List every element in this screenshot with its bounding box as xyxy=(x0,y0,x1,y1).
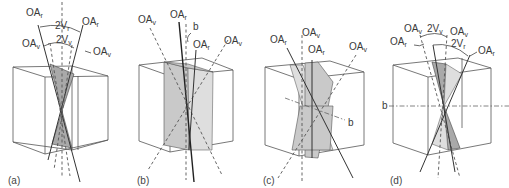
label-oa-v-left: OAv xyxy=(404,23,422,35)
panel-d: OAv 2Vv OAv OAr 2Vr OAr b (d) xyxy=(382,23,509,186)
label-2v-v: 2Vv xyxy=(56,34,72,46)
label-oa-r-right: OAr xyxy=(82,16,99,28)
label-oa-v-left: OAv xyxy=(22,38,40,50)
label-oa-r-left: OAr xyxy=(26,7,43,19)
label-oa-v-top: OAv xyxy=(302,27,320,39)
label-oa-r-mid: OAr xyxy=(193,39,210,51)
label-oa-v-right: OAv xyxy=(224,35,242,47)
optic-axial-plane-b xyxy=(164,62,213,150)
panel-c: OAr OAv OAr OAv b (c) xyxy=(263,27,367,186)
label-oa-r-left: OAr xyxy=(390,36,407,48)
label-oa-r-left: OAr xyxy=(270,34,287,46)
label-2v-r: 2Vr xyxy=(451,38,466,50)
label-oa-v-right: OAv xyxy=(93,46,111,58)
label-oa-r-top: OAr xyxy=(170,9,187,21)
panel-a: OAr OAr 2Vr OAv 2Vv OAv (a) xyxy=(8,2,111,186)
label-2v-r: 2Vr xyxy=(55,20,70,32)
optic-axes-figure: OAr OAr 2Vr OAv 2Vv OAv (a) OAv OAr xyxy=(0,0,509,188)
panel-caption-b: (b) xyxy=(137,175,149,186)
label-b-axis: b xyxy=(382,100,388,111)
label-oa-r-mid: OAr xyxy=(308,44,325,56)
label-oa-r-right: OAr xyxy=(478,45,495,57)
panel-caption-c: (c) xyxy=(263,175,275,186)
label-2v-v: 2Vv xyxy=(427,23,443,35)
panel-caption-a: (a) xyxy=(8,175,20,186)
label-oa-v-right: OAv xyxy=(450,26,468,38)
label-oa-v-right: OAv xyxy=(349,41,367,53)
label-b-axis: b xyxy=(193,21,199,32)
panel-caption-d: (d) xyxy=(390,175,402,186)
panel-b: OAv OAr b OAr OAv (b) xyxy=(137,9,242,186)
optic-axis-wedges-d xyxy=(432,62,462,150)
label-oa-v-left: OAv xyxy=(138,14,156,26)
label-b-axis: b xyxy=(348,117,354,128)
